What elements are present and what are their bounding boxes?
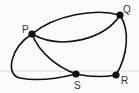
label-p: P bbox=[22, 24, 29, 35]
edge-q-r bbox=[116, 15, 126, 75]
edge-p-s-inner bbox=[32, 34, 76, 74]
edge-s-r bbox=[76, 74, 116, 76]
node-s bbox=[72, 70, 79, 77]
label-s: S bbox=[74, 80, 81, 91]
node-p bbox=[28, 30, 35, 37]
edge-p-q-upper bbox=[32, 12, 120, 34]
nodes bbox=[28, 11, 123, 78]
edge-p-s-outer bbox=[11, 34, 76, 80]
node-r bbox=[112, 71, 119, 78]
edge-p-q-lower bbox=[32, 15, 120, 42]
label-q: Q bbox=[123, 4, 131, 15]
graph-diagram: P Q R S bbox=[0, 0, 139, 93]
label-r: R bbox=[121, 75, 128, 86]
edges bbox=[11, 12, 126, 79]
